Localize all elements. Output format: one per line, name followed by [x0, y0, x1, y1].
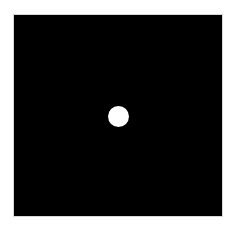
black-square — [14, 15, 222, 216]
image-canvas — [0, 0, 235, 230]
white-dot — [108, 106, 129, 127]
